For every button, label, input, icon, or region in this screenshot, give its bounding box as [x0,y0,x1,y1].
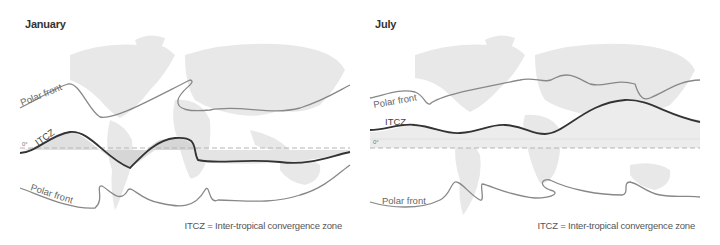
equator-label: 0° [373,139,379,145]
july-panel: Polar front ITCZ 0° Polar front July ITC… [360,0,720,245]
january-map: Polar front ITCZ 0° Polar front [0,0,360,245]
equator-label: 0° [22,141,28,147]
world-land [70,35,345,210]
january-panel: Polar front ITCZ 0° Polar front January … [0,0,360,245]
polar-front-south-label: Polar front [382,195,426,206]
polar-front-north-label: Polar front [19,81,64,108]
july-map: Polar front ITCZ 0° Polar front [360,0,720,245]
legend-note: ITCZ = Inter-tropical convergence zone [538,220,695,231]
panel-title: January [25,18,66,30]
polar-front-south-label: Polar front [29,181,74,205]
polar-front-north-label: Polar front [372,91,417,110]
itcz-label: ITCZ [385,116,406,127]
legend-note: ITCZ = Inter-tropical convergence zone [185,220,342,231]
panel-title: July [375,18,396,30]
